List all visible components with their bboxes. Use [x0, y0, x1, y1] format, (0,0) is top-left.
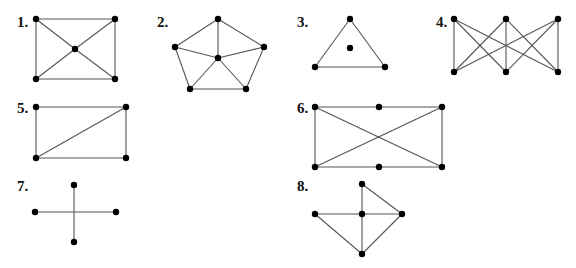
vertex [123, 104, 129, 110]
edge [218, 47, 264, 58]
vertex [359, 211, 365, 217]
vertex [113, 209, 119, 215]
edge [36, 19, 75, 49]
edge [362, 214, 402, 254]
edges [175, 19, 264, 89]
vertices [172, 16, 267, 92]
vertices [312, 181, 405, 257]
graph-diagram-sheet: 1. 2. 3. 4. 5. 6. 7. 8. [0, 0, 576, 268]
graph-label: 5. [17, 100, 29, 116]
edge [75, 49, 115, 79]
vertex [187, 86, 193, 92]
vertex [33, 16, 39, 22]
vertex [33, 104, 39, 110]
graph-label: 6. [297, 100, 309, 116]
vertex [555, 69, 561, 75]
vertices [312, 16, 388, 70]
edge [75, 19, 115, 49]
vertex [451, 16, 457, 22]
vertex [123, 155, 129, 161]
vertex [376, 104, 382, 110]
graph-6: 6. [297, 100, 445, 170]
vertex [503, 69, 509, 75]
edge [36, 107, 126, 158]
vertex [439, 164, 445, 170]
edges [315, 184, 402, 254]
vertex [312, 64, 318, 70]
graph-label: 3. [297, 14, 309, 30]
edges [36, 107, 126, 158]
graph-4: 4. [436, 14, 561, 75]
graph-label: 7. [17, 178, 29, 194]
vertex [33, 76, 39, 82]
vertex [112, 76, 118, 82]
graph-5: 5. [17, 100, 129, 161]
graph-8: 8. [297, 178, 405, 257]
edge [246, 47, 264, 89]
edge [175, 47, 190, 89]
vertex [215, 55, 221, 61]
vertex [312, 164, 318, 170]
graph-3: 3. [297, 14, 388, 70]
vertex [359, 251, 365, 257]
graph-label: 2. [157, 14, 169, 30]
vertex [71, 182, 77, 188]
vertex [112, 16, 118, 22]
vertex [439, 104, 445, 110]
vertex [555, 16, 561, 22]
graph-7: 7. [17, 178, 119, 245]
vertex [312, 211, 318, 217]
vertex [71, 239, 77, 245]
vertex [399, 211, 405, 217]
vertex [312, 104, 318, 110]
edges [35, 185, 116, 242]
edges [454, 19, 558, 72]
vertex [347, 45, 353, 51]
vertex [72, 46, 78, 52]
edges [315, 19, 385, 67]
graph-label: 1. [17, 14, 29, 30]
vertex [503, 16, 509, 22]
edge [36, 49, 75, 79]
vertices [32, 182, 119, 245]
vertex [33, 155, 39, 161]
vertex [172, 44, 178, 50]
vertex [359, 181, 365, 187]
graph-label: 4. [436, 14, 448, 30]
vertex [261, 44, 267, 50]
vertex [347, 16, 353, 22]
edge [175, 19, 218, 47]
vertex [376, 164, 382, 170]
vertex [382, 64, 388, 70]
edge [315, 19, 350, 67]
edge [175, 47, 218, 58]
edge [190, 58, 218, 89]
vertex [32, 209, 38, 215]
vertex [451, 69, 457, 75]
edges [315, 107, 442, 167]
vertex [215, 16, 221, 22]
vertex [243, 86, 249, 92]
edge [350, 19, 385, 67]
edge [315, 214, 362, 254]
edge [218, 19, 264, 47]
graph-label: 8. [297, 178, 309, 194]
graph-1: 1. [17, 14, 118, 82]
edge [362, 184, 402, 214]
graph-2: 2. [157, 14, 267, 92]
edge [218, 58, 246, 89]
